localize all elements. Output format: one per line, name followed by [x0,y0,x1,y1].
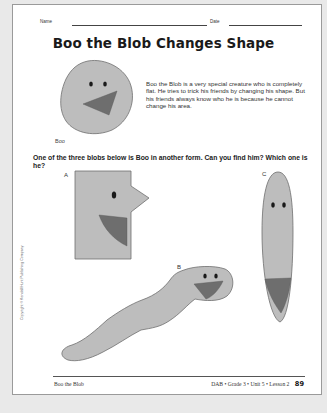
boo-eye-right [103,81,107,86]
boo-eye-left [89,81,93,86]
footer-title: Boo the Blob [54,381,84,387]
choice-label-a: A [64,172,68,178]
blob-illustrations [0,0,327,413]
blob-c[interactable] [262,172,293,322]
blob-a-eye [112,191,116,198]
footer-divider [53,376,305,377]
copyright-notice: Copyright © Kendall/Hunt Publishing Comp… [20,245,24,320]
blob-b-eye-right [214,273,217,278]
footer-lesson: DAB • Grade 3 • Unit 5 • Lesson 2 [211,381,289,387]
boo-blob [61,60,133,133]
choice-label-c: C [262,171,266,177]
page-number: 89 [295,380,304,388]
footer-course-info: DAB • Grade 3 • Unit 5 • Lesson 2 89 [211,380,304,388]
question-text: One of the three blobs below is Boo in a… [33,154,313,170]
blob-b[interactable] [62,266,233,360]
blob-c-eye-left [271,202,275,208]
blob-b-eye-left [203,273,206,278]
blob-c-eye-right [282,202,286,208]
boo-caption: Boo [55,138,65,144]
choice-label-b: B [177,264,181,270]
intro-paragraph: Boo the Blob is a very special creature … [146,80,312,109]
blob-a[interactable] [75,171,149,259]
